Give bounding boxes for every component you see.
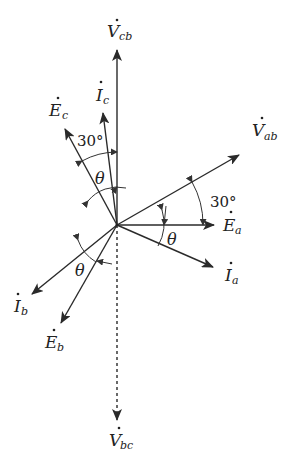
phasor-ic xyxy=(103,113,117,225)
label-ia: I a xyxy=(224,262,239,287)
svg-text:I: I xyxy=(95,85,103,105)
label-vbc: V bc xyxy=(109,427,133,452)
phasor-vab xyxy=(117,155,239,225)
svg-text:bc: bc xyxy=(120,439,133,452)
svg-text:a: a xyxy=(232,274,239,287)
svg-text:ab: ab xyxy=(264,130,278,143)
label-vcb: V cb xyxy=(107,19,132,43)
origin-point xyxy=(115,223,118,226)
arc-upper-30 xyxy=(82,152,117,161)
svg-text:E: E xyxy=(222,215,236,235)
svg-text:E: E xyxy=(44,332,58,352)
svg-text:a: a xyxy=(235,224,242,237)
angle-label-right-theta: θ xyxy=(167,230,177,249)
arc-upper-theta xyxy=(88,187,126,201)
svg-text:I: I xyxy=(13,296,21,316)
label-ic: I c xyxy=(95,81,109,107)
arc-right-theta xyxy=(158,210,164,246)
label-eb: E b xyxy=(44,329,64,354)
svg-text:E: E xyxy=(48,100,62,120)
phasor-ib xyxy=(32,225,117,294)
svg-text:I: I xyxy=(224,265,232,285)
svg-text:c: c xyxy=(62,109,68,122)
phasor-eb xyxy=(61,225,117,323)
arc-lower-theta xyxy=(78,240,96,262)
angle-label-lower-theta: θ xyxy=(75,261,85,280)
arc-lower-theta-tick xyxy=(97,261,112,264)
label-vab: V ab xyxy=(252,117,278,143)
angle-label-upper-30: 30° xyxy=(77,132,104,150)
angle-label-right-30: 30° xyxy=(210,193,237,211)
arc-right-theta-tick xyxy=(164,206,166,225)
svg-text:c: c xyxy=(103,94,109,107)
phasor-diagram: V cb I c E c V ab E a I a I b E b V bc xyxy=(0,0,304,460)
svg-text:b: b xyxy=(57,341,64,354)
angle-label-upper-theta: θ xyxy=(95,169,105,188)
label-ec: E c xyxy=(48,97,68,122)
phasor-ia xyxy=(117,225,213,267)
label-ea: E a xyxy=(222,211,242,237)
arc-right-30 xyxy=(192,182,203,225)
svg-text:cb: cb xyxy=(119,30,132,43)
label-ib: I b xyxy=(13,293,28,318)
svg-text:b: b xyxy=(21,305,28,318)
